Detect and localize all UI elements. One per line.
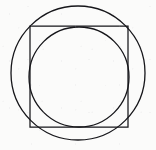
figure-svg: Circle, square and inscribed circle [0,0,156,150]
geometric-figure: Circle, square and inscribed circle [0,0,156,150]
inner-circle [29,27,129,127]
